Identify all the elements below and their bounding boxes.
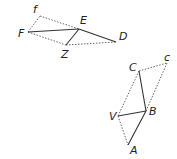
label-Z: Z — [60, 48, 69, 61]
segment-E-Z — [66, 29, 79, 45]
segment-C-B — [139, 71, 146, 111]
upper-figure: f F E Z D — [18, 3, 127, 61]
segment-V-A — [118, 116, 128, 145]
label-E: E — [80, 14, 87, 27]
label-F: F — [18, 27, 25, 40]
label-V: V — [109, 110, 118, 123]
segment-F-f — [28, 16, 40, 32]
label-D: D — [119, 30, 127, 43]
segment-C-V — [118, 71, 139, 116]
lower-figure: C c B V A — [109, 51, 170, 157]
label-A: A — [129, 144, 138, 157]
segment-f-E — [40, 16, 79, 29]
segment-E-D — [79, 29, 116, 42]
label-B: B — [149, 105, 157, 118]
geometry-diagram: f F E Z D C c B V A — [0, 0, 177, 159]
segment-B-A — [128, 111, 146, 145]
label-f: f — [33, 3, 39, 16]
segment-V-B — [118, 111, 146, 116]
segment-c-B — [146, 63, 167, 111]
segment-Z-D — [66, 42, 116, 45]
segment-C-c — [139, 63, 167, 71]
segment-F-E — [28, 29, 79, 32]
label-c: c — [164, 51, 170, 64]
label-C: C — [129, 61, 137, 74]
segment-F-Z — [28, 32, 66, 45]
